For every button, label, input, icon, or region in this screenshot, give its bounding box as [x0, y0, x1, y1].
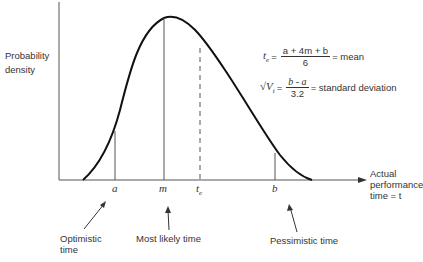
sd-numerator: b - a	[286, 76, 308, 88]
mean-lhs-sub: e	[266, 56, 269, 64]
optimistic-line1: Optimistic	[60, 233, 102, 244]
mean-numerator: a + 4m + b	[281, 45, 330, 57]
mean-denominator: 6	[303, 57, 308, 68]
x-axis-label: Actual performance time = t	[370, 168, 423, 201]
x-label-line2: performance	[370, 179, 423, 190]
mean-formula: te = a + 4m + b 6 = mean	[263, 45, 364, 68]
mean-fraction: a + 4m + b 6	[281, 45, 330, 68]
sd-denominator: 3.2	[291, 88, 304, 99]
pessimistic-arrowhead-icon	[287, 204, 293, 211]
pessimistic-arrow	[290, 207, 297, 232]
y-axis-label: Probability density	[5, 50, 49, 75]
sd-rhs: = standard deviation	[311, 82, 397, 93]
sd-formula: √Vt = b - a 3.2 = standard deviation	[260, 76, 396, 99]
optimistic-arrowhead-icon	[100, 201, 106, 208]
most-likely-arrowhead-icon	[165, 206, 171, 213]
optimistic-line2: time	[60, 244, 102, 255]
y-label-line1: Probability	[5, 50, 49, 61]
beta-distribution-diagram	[0, 0, 423, 262]
optimistic-arrow	[84, 204, 104, 229]
pessimistic-time-label: Pessimistic time	[270, 235, 338, 246]
sd-lhs-sub: t	[273, 87, 275, 95]
tick-te-sub: e	[199, 189, 202, 197]
tick-b: b	[272, 183, 278, 194]
x-label-line3: time = t	[370, 190, 423, 201]
mean-rhs: = mean	[332, 51, 364, 62]
sd-equals: =	[277, 82, 283, 93]
tick-a: a	[112, 183, 118, 194]
mean-equals: =	[271, 51, 277, 62]
mean-lhs: te	[263, 49, 269, 64]
x-axis-arrow-icon	[358, 177, 367, 183]
sd-lhs: √Vt	[260, 80, 275, 95]
sd-fraction: b - a 3.2	[286, 76, 308, 99]
x-label-line1: Actual	[370, 168, 423, 179]
most-likely-time-label: Most likely time	[136, 233, 201, 244]
optimistic-time-label: Optimistic time	[60, 233, 102, 255]
y-label-line2: density	[5, 64, 49, 75]
sd-lhs-main: √V	[260, 80, 273, 92]
tick-te: te	[196, 183, 202, 199]
tick-m: m	[159, 183, 167, 194]
